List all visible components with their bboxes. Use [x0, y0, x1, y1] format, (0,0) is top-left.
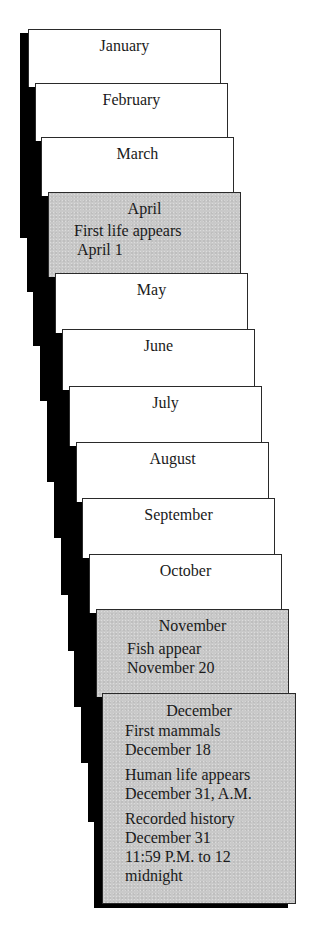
event-date: April 1	[74, 240, 234, 259]
event-title: Recorded history	[125, 809, 289, 828]
event-human-life: Human life appears December 31, A.M.	[125, 765, 289, 803]
month-label: July	[70, 393, 261, 412]
month-label: September	[83, 505, 274, 524]
event-title: Fish appear	[127, 639, 282, 658]
month-label: August	[77, 449, 268, 468]
event-list: First mammals December 18 Human life app…	[103, 721, 295, 885]
event-date: December 31	[125, 828, 289, 847]
event-recorded-history: Recorded history December 31 11:59 P.M. …	[125, 809, 289, 885]
month-label: December	[103, 701, 295, 720]
month-label: June	[63, 336, 254, 355]
page-december: December First mammals December 18 Human…	[102, 693, 296, 904]
month-label: May	[56, 280, 247, 299]
event-first-life: First life appears April 1	[74, 221, 234, 259]
event-list: Fish appear November 20	[97, 639, 288, 677]
event-list: First life appears April 1	[49, 221, 240, 259]
event-title: Human life appears	[125, 765, 289, 784]
month-label: February	[36, 90, 227, 109]
calendar-page-stack: January February March April First life …	[0, 0, 309, 927]
event-time: 11:59 P.M. to 12	[125, 847, 289, 866]
month-label: April	[49, 199, 240, 218]
month-label: October	[90, 561, 281, 580]
event-date: November 20	[127, 658, 282, 677]
event-title: First mammals	[125, 721, 289, 740]
event-date: December 31, A.M.	[125, 784, 289, 803]
month-label: January	[29, 36, 220, 55]
event-title: First life appears	[74, 221, 234, 240]
month-label: March	[42, 144, 233, 163]
event-time: midnight	[125, 866, 289, 885]
month-label: November	[97, 616, 288, 635]
event-date: December 18	[125, 740, 289, 759]
event-first-mammals: First mammals December 18	[125, 721, 289, 759]
event-fish: Fish appear November 20	[127, 639, 282, 677]
